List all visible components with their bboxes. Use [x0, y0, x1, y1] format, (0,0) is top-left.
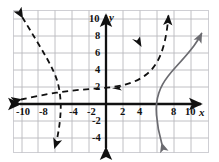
y-axis-label: y	[109, 12, 114, 23]
x-tick-label-8: 8	[171, 107, 176, 118]
y-tick-label-10: 10	[89, 14, 100, 25]
x-axis-label: x	[199, 107, 205, 118]
x-tick-label-10: 10	[185, 107, 196, 118]
y-tick-label-2: 2	[95, 82, 100, 93]
y-tick-label--4: -4	[92, 133, 101, 144]
y-tick-label-6: 6	[95, 48, 100, 59]
y-tick-label-4: 4	[95, 65, 100, 76]
x-tick-label-2: 2	[120, 107, 125, 118]
y-tick-label-8: 8	[95, 31, 100, 42]
coordinate-plane-svg	[0, 0, 219, 162]
x-tick-label--10: -10	[16, 107, 30, 118]
x-tick-label-4: 4	[137, 107, 142, 118]
graph-figure: -10 -8 -4 -2 2 4 8 10 10 8 6 4 2 -2 -4 y…	[0, 0, 219, 162]
x-tick-label--4: -4	[69, 107, 78, 118]
y-tick-label--2: -2	[92, 116, 101, 127]
x-tick-label--8: -8	[39, 107, 48, 118]
plot-frame	[14, 11, 209, 153]
